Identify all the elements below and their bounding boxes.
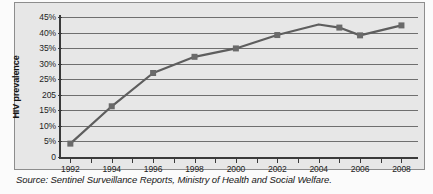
figure-container: HIV prevalence 05%10%15%20525%30%35%40%4… [0, 0, 433, 194]
x-axis-tick-mark [174, 159, 175, 163]
x-axis-tick-label: 2006 [351, 164, 370, 174]
x-axis-tick-label: 1992 [61, 164, 80, 174]
x-axis-tick-mark [70, 159, 71, 163]
x-axis-tick-label: 1994 [102, 164, 121, 174]
y-axis-tick-label: 40% [39, 28, 56, 38]
x-axis-tick-mark [215, 159, 216, 163]
x-axis-tick-mark [195, 159, 196, 163]
x-axis-tick-mark [401, 159, 402, 163]
y-axis-tick-labels: 05%10%15%20525%30%35%40%45% [0, 17, 56, 157]
x-axis-tick-mark [319, 159, 320, 163]
x-axis-tick-mark [339, 159, 340, 163]
data-point-marker [336, 25, 342, 31]
x-axis-tick-label: 2008 [392, 164, 411, 174]
x-axis-tick-label: 2000 [227, 164, 246, 174]
x-axis-tick-mark [91, 159, 92, 163]
y-axis-tick-label: 205 [42, 90, 56, 100]
x-axis-tick-label: 2002 [268, 164, 287, 174]
data-point-marker [150, 70, 156, 76]
x-axis-tick-mark [236, 159, 237, 163]
x-axis-tick-label: 1996 [144, 164, 163, 174]
data-point-marker [109, 103, 115, 109]
x-axis-tick-label: 2004 [309, 164, 328, 174]
y-axis-tick-label: 10% [39, 121, 56, 131]
y-axis-tick-label: 25% [39, 74, 56, 84]
x-axis-tick-label: 1998 [185, 164, 204, 174]
series-polyline [70, 24, 401, 143]
x-axis-tick-mark [132, 159, 133, 163]
y-axis-tick-label: 5% [44, 136, 56, 146]
y-axis-tick-label: 45% [39, 12, 56, 22]
x-axis-tick-mark [112, 159, 113, 163]
y-axis-tick-label: 30% [39, 59, 56, 69]
data-point-marker [192, 54, 198, 60]
y-axis-tick-label: 0 [51, 152, 56, 162]
x-axis-tick-mark [298, 159, 299, 163]
data-series-line [60, 17, 418, 157]
x-axis-tick-mark [153, 159, 154, 163]
x-axis-tick-mark [381, 159, 382, 163]
x-axis-tick-mark [360, 159, 361, 163]
x-axis-tick-mark [277, 159, 278, 163]
data-point-marker [274, 32, 280, 38]
data-point-marker [233, 45, 239, 51]
data-point-marker [398, 22, 404, 28]
x-axis-tick-mark [257, 159, 258, 163]
y-axis-tick-label: 15% [39, 105, 56, 115]
data-point-marker [357, 32, 363, 38]
y-axis-tick-label: 35% [39, 43, 56, 53]
data-point-marker [67, 141, 73, 147]
source-caption: Source: Sentinel Surveillance Reports, M… [16, 174, 332, 185]
